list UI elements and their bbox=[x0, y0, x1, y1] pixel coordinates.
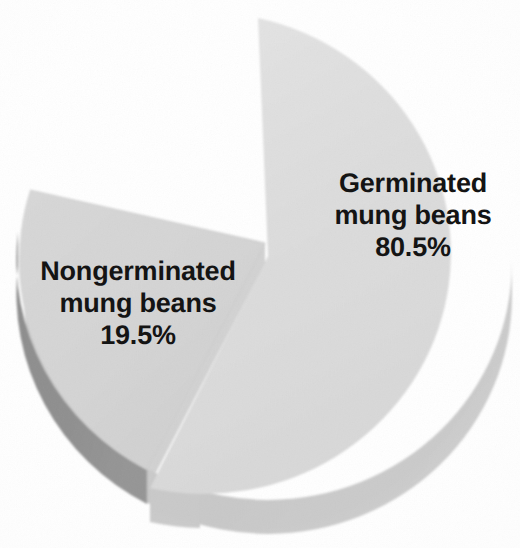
slice-label-germinated-line2: mung beans bbox=[318, 200, 508, 232]
slice-label-nongerminated: Nongerminated mung beans 19.5% bbox=[16, 256, 260, 352]
slice-label-nongerminated-line1: Nongerminated bbox=[16, 256, 260, 288]
slice-label-germinated: Germinated mung beans 80.5% bbox=[318, 168, 508, 264]
slice-label-nongerminated-line2: mung beans bbox=[16, 288, 260, 320]
pie-chart: Germinated mung beans 80.5% Nongerminate… bbox=[0, 0, 520, 548]
slice-label-germinated-line1: Germinated bbox=[318, 168, 508, 200]
slice-value-germinated: 80.5% bbox=[318, 232, 508, 264]
slice-value-nongerminated: 19.5% bbox=[16, 320, 260, 352]
